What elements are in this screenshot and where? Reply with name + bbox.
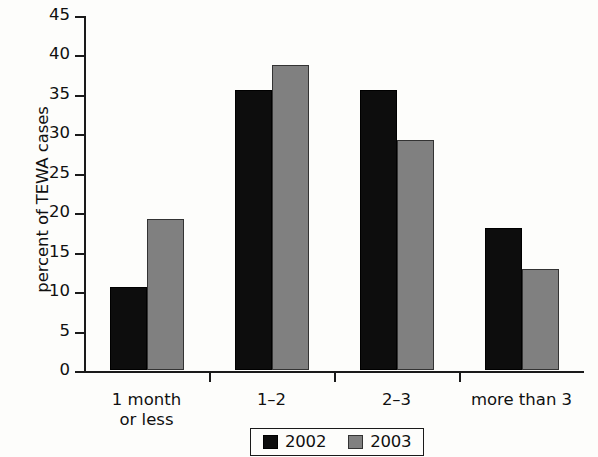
bar-2003-0 — [147, 219, 184, 370]
legend-swatch-2002 — [263, 435, 278, 449]
bar-2002-3 — [485, 228, 522, 370]
legend-label-2003: 2003 — [370, 432, 411, 451]
legend-entry-2002[interactable]: 2002 — [263, 432, 326, 451]
y-axis-tick-label: 30 — [49, 123, 70, 142]
y-axis-tick-label: 15 — [49, 242, 70, 261]
y-axis-tick: 45 — [75, 16, 84, 18]
bar-2002-0 — [110, 287, 147, 370]
y-axis-tick: 5 — [75, 332, 84, 334]
bar-chart-figure: percent of TEWA cases 051015202530354045… — [0, 0, 598, 457]
y-axis-tick: 15 — [75, 253, 84, 255]
y-axis-tick-label: 45 — [49, 5, 70, 24]
x-axis-category-label: 1–2 — [209, 390, 334, 410]
y-axis-spine — [84, 16, 86, 373]
x-axis-tick — [459, 373, 461, 382]
bar-2002-2 — [360, 90, 397, 370]
bar-2003-1 — [272, 65, 309, 370]
legend-label-2002: 2002 — [285, 432, 326, 451]
legend-swatch-2003 — [348, 435, 363, 449]
legend-entry-2003[interactable]: 2003 — [348, 432, 411, 451]
y-axis-tick: 10 — [75, 292, 84, 294]
y-axis-tick-label: 40 — [49, 44, 70, 63]
y-axis-tick: 25 — [75, 174, 84, 176]
y-axis-tick: 0 — [75, 371, 84, 373]
bar-2003-2 — [397, 140, 434, 370]
y-axis-tick-label: 35 — [49, 84, 70, 103]
y-axis-tick: 40 — [75, 55, 84, 57]
bar-2003-3 — [522, 269, 559, 370]
x-axis-tick — [209, 373, 211, 382]
x-axis-category-label: 2–3 — [334, 390, 459, 410]
y-axis-tick-label: 25 — [49, 163, 70, 182]
y-axis-tick-label: 0 — [60, 360, 71, 379]
x-axis-tick — [334, 373, 336, 382]
y-axis-tick: 20 — [75, 213, 84, 215]
x-axis-category-label: more than 3 — [459, 390, 584, 410]
x-axis-category-label: 1 month or less — [84, 390, 209, 430]
y-axis-tick-label: 10 — [49, 281, 70, 300]
plot-area: 051015202530354045 1 month or less1–22–3… — [84, 16, 584, 372]
y-axis-tick-label: 5 — [60, 321, 71, 340]
y-axis-tick: 30 — [75, 134, 84, 136]
y-axis-tick: 35 — [75, 95, 84, 97]
chart-legend: 20022003 — [250, 428, 424, 456]
y-axis-tick-label: 20 — [49, 202, 70, 221]
bar-2002-1 — [235, 90, 272, 370]
